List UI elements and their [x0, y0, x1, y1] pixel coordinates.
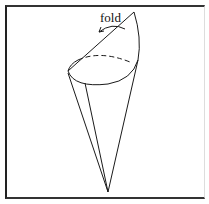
- opening-ellipse-back: [78, 55, 130, 62]
- cone-right-edge: [108, 60, 138, 192]
- cone-diagram: fold: [0, 0, 209, 204]
- cone-left-edge: [68, 73, 108, 192]
- fold-label: fold: [100, 10, 121, 25]
- opening-ellipse-front: [68, 60, 138, 85]
- fold-flap-curve: [134, 12, 139, 60]
- cone-inner-edge: [85, 83, 108, 192]
